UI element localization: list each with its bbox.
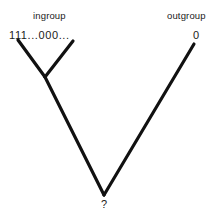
ingroup-label: ingroup xyxy=(33,11,66,21)
root-state-label: ? xyxy=(101,199,107,210)
ingroup-stem-branch xyxy=(45,77,104,195)
outgroup-branch xyxy=(104,44,194,195)
cladogram-figure: ingroup outgroup 111...000... 0 ? xyxy=(0,0,219,222)
ingroup-right-branch xyxy=(45,41,73,77)
ingroup-character-states-label: 111...000... xyxy=(9,30,70,41)
ingroup-left-branch xyxy=(18,40,45,77)
outgroup-character-state-label: 0 xyxy=(193,30,200,41)
outgroup-label: outgroup xyxy=(167,11,206,21)
